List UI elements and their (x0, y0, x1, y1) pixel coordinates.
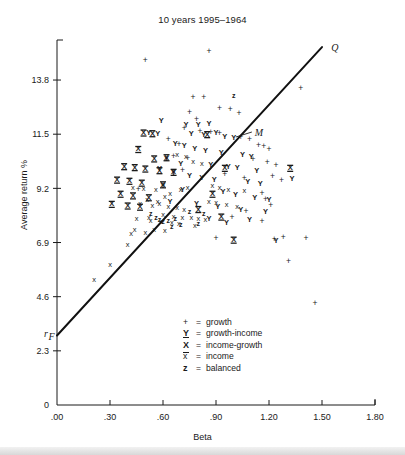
legend-row-income: x=income (183, 351, 262, 362)
x-tick-label: 1.50 (313, 412, 331, 422)
annotation-m: M (254, 127, 264, 138)
data-point-income-growth: X (149, 129, 155, 138)
data-point-income-growth: X (160, 180, 166, 189)
svg-text:x: x (242, 186, 246, 195)
svg-text:Y: Y (159, 116, 164, 125)
data-point-income-growth: X (109, 199, 115, 208)
svg-text:Y: Y (263, 207, 268, 216)
data-point-growth: + (166, 134, 171, 144)
svg-text:x: x (143, 228, 147, 237)
data-point-income: x (156, 197, 160, 206)
svg-text:+: + (201, 92, 206, 102)
svg-text:x: x (163, 192, 167, 201)
data-point-growth-income: Y (266, 195, 271, 204)
data-point-income: x (154, 185, 158, 194)
data-point-income: x (129, 229, 133, 238)
legend-row-growth-income: Y=growth-income (183, 328, 262, 339)
data-point-income-growth: X (156, 166, 162, 175)
data-point-income: x (135, 214, 139, 223)
data-point-income: x (218, 183, 222, 192)
data-point-balanced: z (188, 208, 192, 215)
data-point-balanced: z (170, 223, 174, 230)
data-point-income-growth: X (222, 163, 228, 172)
svg-text:x: x (211, 181, 215, 190)
legend-label-income: income (206, 351, 234, 362)
svg-text:Y: Y (189, 129, 194, 138)
svg-text:Y: Y (245, 177, 250, 186)
svg-text:z: z (232, 92, 236, 99)
data-point-income: x (175, 150, 179, 159)
data-point-income: x (191, 157, 195, 166)
svg-text:+: + (265, 157, 270, 167)
legend-symbol-growth: + (183, 317, 196, 328)
svg-text:+: + (281, 232, 286, 242)
data-point-income: x (166, 202, 170, 211)
svg-text:x: x (184, 152, 188, 161)
data-point-growth: + (298, 83, 303, 93)
data-point-income-growth: X (132, 163, 138, 172)
data-point-income: x (225, 200, 229, 209)
svg-text:Y: Y (252, 193, 257, 202)
data-point-growth-income: Y (254, 166, 259, 175)
data-point-growth: + (247, 134, 252, 144)
figure-container: 10 years 1995–1964 Average return % Beta… (0, 0, 405, 455)
data-point-income: x (184, 152, 188, 161)
data-point-growth: + (281, 232, 286, 242)
data-point-growth-income: Y (187, 171, 192, 180)
svg-text:x: x (145, 195, 149, 204)
y-tick-label: 13.8 (31, 75, 49, 85)
svg-text:+: + (166, 134, 171, 144)
svg-text:x: x (131, 183, 135, 192)
svg-text:+: + (236, 108, 241, 118)
legend-label-growth: growth (206, 317, 232, 328)
annotation-risk-free-rate: r (44, 328, 48, 339)
data-point-income: x (108, 260, 112, 269)
svg-text:+: + (217, 103, 222, 113)
svg-text:x: x (156, 197, 160, 206)
svg-text:+: + (298, 83, 303, 93)
legend-equals: = (196, 363, 206, 374)
data-point-income: x (200, 159, 204, 168)
data-point-income-growth: X (142, 164, 148, 173)
legend: +=growthY=growth-incomeX=income-growthx=… (183, 317, 262, 374)
svg-text:Y: Y (224, 218, 229, 227)
data-point-growth: + (201, 92, 206, 102)
data-point-income: x (226, 185, 230, 194)
svg-text:Y: Y (183, 120, 188, 129)
svg-text:Y: Y (274, 236, 279, 245)
data-point-income-growth: X (287, 163, 293, 172)
svg-text:Y: Y (196, 120, 201, 129)
data-point-income-growth: X (204, 130, 210, 139)
data-point-growth: + (279, 175, 284, 185)
data-point-income-growth: X (121, 162, 127, 171)
y-tick-label: 11.5 (32, 129, 49, 139)
footer-band (0, 447, 405, 455)
svg-text:+: + (187, 107, 192, 117)
svg-text:Y: Y (266, 195, 271, 204)
data-point-balanced: z (202, 210, 206, 217)
data-point-growth: + (270, 171, 275, 181)
market-line (57, 47, 322, 335)
data-point-income-growth: X (114, 175, 120, 184)
legend-row-income-growth: X=income-growth (183, 340, 262, 351)
data-point-income-growth: X (151, 154, 157, 163)
legend-equals: = (196, 317, 206, 328)
data-point-income: x (163, 226, 167, 235)
svg-text:Y: Y (192, 144, 197, 153)
x-tick-label: .60 (157, 412, 170, 422)
data-point-growth-income: Y (233, 190, 238, 199)
data-point-income-growth: X (141, 128, 147, 137)
svg-text:x: x (138, 199, 142, 208)
data-point-income: x (143, 228, 147, 237)
x-tick-label: .90 (210, 412, 223, 422)
y-tick-label: 0 (44, 400, 49, 410)
legend-row-balanced: z=balanced (183, 363, 262, 374)
data-point-income: x (131, 183, 135, 192)
svg-text:x: x (218, 183, 222, 192)
data-point-income-growth: X (164, 153, 170, 162)
svg-text:+: + (261, 141, 266, 151)
data-point-balanced: z (179, 221, 183, 228)
svg-text:x: x (129, 229, 133, 238)
svg-text:x: x (207, 197, 211, 206)
svg-text:+: + (256, 140, 261, 150)
